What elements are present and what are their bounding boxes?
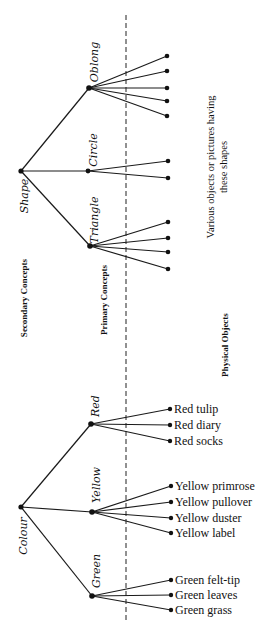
- secondary-label-colour: Colour: [17, 517, 30, 555]
- green-branches: [92, 578, 173, 612]
- primary-label-green: Green: [90, 554, 103, 588]
- heading-primary-concepts: Primary Concepts: [99, 264, 109, 335]
- circle-node: [86, 169, 91, 174]
- circle-branches: [88, 159, 170, 181]
- secondary-label-shape: Shape: [18, 178, 31, 213]
- leaf-yellow-pullover: Yellow pullover: [175, 495, 252, 509]
- leaf-green-leaves: Green leaves: [175, 588, 238, 602]
- leaf-yellow-label: Yellow label: [175, 526, 236, 540]
- red-branches: [91, 407, 172, 443]
- oblong-node: [86, 85, 92, 91]
- leaf-yellow-primrose: Yellow primrose: [175, 479, 255, 493]
- primary-label-circle: Circle: [87, 133, 100, 167]
- leaf-green-grass: Green grass: [175, 603, 232, 617]
- shape-tree: Shape Oblong Circle Triangle Various obj…: [18, 42, 229, 271]
- yellow-branches: [92, 484, 173, 535]
- leaf-red-diary: Red diary: [174, 418, 221, 432]
- colour-tree: Colour Red Yellow Green Red tulip Red di…: [17, 395, 255, 617]
- colour-node: [18, 504, 23, 509]
- leaf-red-socks: Red socks: [174, 434, 223, 448]
- yellow-node: [89, 509, 95, 515]
- concept-hierarchy-diagram: Shape Oblong Circle Triangle Various obj…: [0, 0, 276, 625]
- red-node: [88, 421, 94, 427]
- heading-physical-objects: Physical Objects: [220, 313, 230, 377]
- primary-label-yellow: Yellow: [90, 466, 103, 502]
- primary-label-oblong: Oblong: [88, 42, 101, 82]
- primary-label-triangle: Triangle: [88, 196, 101, 243]
- shape-objects-note-line1: Various objects or pictures having: [205, 95, 216, 239]
- shape-objects-note-line2: these shapes: [218, 141, 229, 193]
- triangle-branches: [90, 220, 170, 272]
- oblong-branches: [89, 54, 169, 119]
- leaf-green-felt-tip: Green felt-tip: [175, 573, 240, 587]
- leaf-red-tulip: Red tulip: [174, 402, 218, 416]
- primary-label-red: Red: [89, 395, 102, 418]
- green-node: [89, 593, 95, 599]
- heading-secondary-concepts: Secondary Concepts: [19, 258, 29, 337]
- leaf-yellow-duster: Yellow duster: [175, 511, 241, 525]
- shape-node: [18, 168, 23, 173]
